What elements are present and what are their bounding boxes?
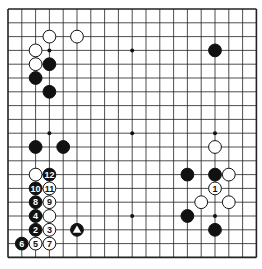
white-stone bbox=[71, 30, 84, 43]
move-number: 3 bbox=[47, 225, 52, 235]
go-board-svg: 121011894236571 bbox=[0, 0, 262, 269]
white-stone bbox=[222, 196, 235, 209]
stone-disc bbox=[209, 223, 222, 236]
move-number: 10 bbox=[31, 184, 41, 194]
stone-disc bbox=[181, 210, 194, 223]
black-stone bbox=[209, 168, 222, 181]
stone-disc bbox=[209, 141, 222, 154]
move-number: 12 bbox=[44, 170, 54, 180]
stone-disc bbox=[209, 168, 222, 181]
stone-disc bbox=[43, 58, 56, 71]
move-number: 6 bbox=[19, 239, 24, 249]
stone-disc bbox=[29, 72, 42, 85]
stone-disc bbox=[29, 168, 42, 181]
black-stone bbox=[71, 223, 84, 236]
star-point bbox=[130, 131, 134, 135]
black-stone bbox=[43, 85, 56, 98]
stone-disc bbox=[222, 196, 235, 209]
move-number: 1 bbox=[212, 184, 217, 194]
move-number: 11 bbox=[45, 184, 55, 194]
stones-layer: 121011894236571 bbox=[15, 30, 235, 250]
black-stone: 4 bbox=[29, 210, 42, 223]
black-stone bbox=[57, 141, 70, 154]
go-board: 121011894236571 bbox=[0, 0, 262, 269]
white-stone: 1 bbox=[209, 182, 222, 195]
stone-disc bbox=[43, 210, 56, 223]
white-stone: 9 bbox=[43, 196, 56, 209]
star-point bbox=[47, 48, 51, 52]
white-stone bbox=[222, 168, 235, 181]
star-point bbox=[130, 48, 134, 52]
black-stone bbox=[43, 58, 56, 71]
move-number: 8 bbox=[33, 197, 38, 207]
white-stone: 3 bbox=[43, 223, 56, 236]
stone-disc bbox=[43, 85, 56, 98]
black-stone: 2 bbox=[29, 223, 42, 236]
move-number: 5 bbox=[33, 239, 38, 249]
black-stone bbox=[209, 223, 222, 236]
stone-disc bbox=[29, 44, 42, 57]
stone-disc bbox=[43, 30, 56, 43]
white-stone bbox=[43, 210, 56, 223]
move-number: 9 bbox=[47, 197, 52, 207]
black-stone: 10 bbox=[29, 182, 42, 195]
stone-disc bbox=[181, 168, 194, 181]
white-stone bbox=[29, 58, 42, 71]
black-stone: 12 bbox=[43, 168, 56, 181]
white-stone: 5 bbox=[29, 237, 42, 250]
stone-disc bbox=[195, 196, 208, 209]
stone-disc bbox=[209, 44, 222, 57]
white-stone bbox=[195, 196, 208, 209]
stone-disc bbox=[29, 58, 42, 71]
star-point bbox=[130, 214, 134, 218]
black-stone bbox=[181, 168, 194, 181]
stone-disc bbox=[29, 141, 42, 154]
stone-disc bbox=[57, 141, 70, 154]
move-number: 2 bbox=[33, 225, 38, 235]
black-stone: 6 bbox=[15, 237, 28, 250]
stone-disc bbox=[71, 30, 84, 43]
black-stone bbox=[29, 141, 42, 154]
move-number: 4 bbox=[33, 211, 38, 221]
white-stone bbox=[29, 44, 42, 57]
white-stone bbox=[29, 168, 42, 181]
white-stone bbox=[43, 30, 56, 43]
move-number: 7 bbox=[47, 239, 52, 249]
black-stone bbox=[29, 72, 42, 85]
white-stone: 11 bbox=[43, 182, 56, 195]
white-stone bbox=[209, 141, 222, 154]
stone-disc bbox=[222, 168, 235, 181]
star-point bbox=[213, 214, 217, 218]
star-point bbox=[47, 131, 51, 135]
black-stone bbox=[181, 210, 194, 223]
black-stone: 8 bbox=[29, 196, 42, 209]
white-stone: 7 bbox=[43, 237, 56, 250]
star-point bbox=[213, 131, 217, 135]
black-stone bbox=[209, 44, 222, 57]
